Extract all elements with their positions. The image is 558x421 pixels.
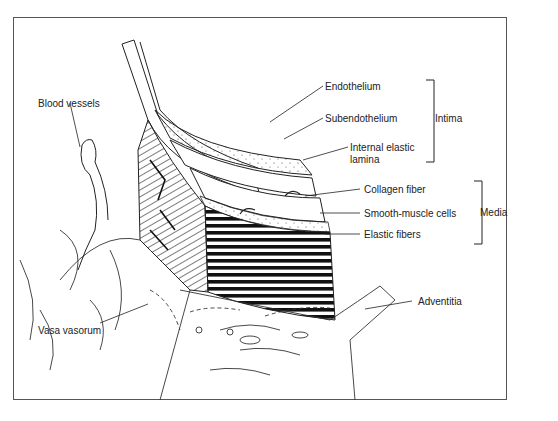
brackets — [426, 80, 482, 244]
label-subendothelium: Subendothelium — [325, 113, 397, 124]
artery-illustration — [0, 0, 558, 421]
intima-bracket — [426, 80, 434, 162]
label-intima: Intima — [435, 113, 462, 124]
label-internal-elastic-lamina-line2: lamina — [350, 154, 379, 165]
label-elastic-fibers: Elastic fibers — [364, 229, 421, 240]
label-collagen-fiber: Collagen fiber — [364, 184, 426, 195]
blood-vessels-drawing — [78, 140, 108, 270]
label-internal-elastic-lamina-line1: Internal elastic — [350, 142, 414, 153]
label-adventitia: Adventitia — [418, 296, 462, 307]
label-endothelium: Endothelium — [325, 81, 381, 92]
label-media: Media — [480, 207, 507, 218]
label-smooth-muscle-cells: Smooth-muscle cells — [364, 208, 456, 219]
label-blood-vessels: Blood vessels — [38, 98, 100, 109]
label-vasa-vasorum: Vasa vasorum — [38, 325, 101, 336]
